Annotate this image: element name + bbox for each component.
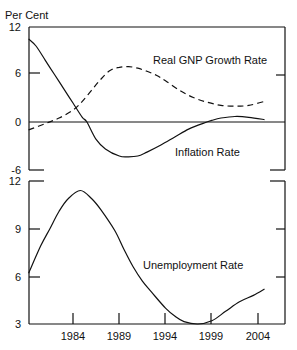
y-tick-label-6: 6 xyxy=(15,67,21,79)
y-tick-label-9: 9 xyxy=(15,223,21,235)
y-tick-label-12: 12 xyxy=(9,21,21,33)
x-tick-label-1994: 1994 xyxy=(153,330,177,342)
y-tick-label-3: 3 xyxy=(15,318,21,330)
top-panel: 12 6 0 -6 Real GNP Growth Rate Inflation… xyxy=(9,21,285,176)
unemployment-line xyxy=(29,191,265,325)
unemployment-series-label: Unemployment Rate xyxy=(143,259,243,271)
inflation-series-label: Inflation Rate xyxy=(175,146,240,158)
y-axis-unit-label: Per Cent xyxy=(5,9,48,21)
economic-indicators-chart: Per Cent 12 6 0 -6 Real GNP Growth Rate … xyxy=(0,0,297,350)
gnp-series-label: Real GNP Growth Rate xyxy=(153,54,267,66)
y-tick-label-6-bottom: 6 xyxy=(15,271,21,283)
x-tick-label-1984: 1984 xyxy=(61,330,85,342)
x-tick-label-1999: 1999 xyxy=(199,330,223,342)
x-tick-label-2004: 2004 xyxy=(246,330,270,342)
gnp-growth-line xyxy=(29,67,265,130)
bottom-panel: 12 9 6 3 1984 1989 1994 1999 2004 Unempl… xyxy=(9,175,285,342)
y-tick-label-12-bottom: 12 xyxy=(9,175,21,187)
y-tick-label-0: 0 xyxy=(15,116,21,128)
x-tick-label-1989: 1989 xyxy=(107,330,131,342)
